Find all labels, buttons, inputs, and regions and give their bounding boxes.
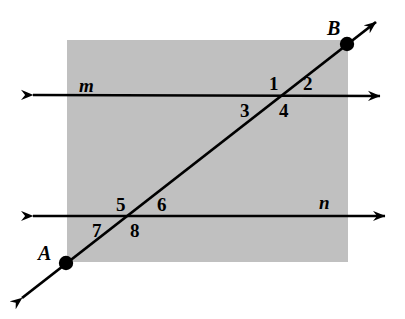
line-n-label: n <box>319 193 330 212</box>
angle-label-5: 5 <box>116 195 126 214</box>
point-b-dot <box>340 37 354 51</box>
point-a-dot <box>59 256 73 270</box>
angle-label-1: 1 <box>269 74 279 93</box>
line-m-label: m <box>79 76 94 95</box>
point-a-label: A <box>38 243 51 263</box>
angle-label-2: 2 <box>303 74 313 93</box>
angle-label-8: 8 <box>130 221 140 240</box>
angle-label-6: 6 <box>157 195 167 214</box>
point-b-label: B <box>327 18 340 38</box>
geometry-figure: A B m n 1 2 3 4 5 6 7 8 <box>0 0 405 319</box>
angle-label-3: 3 <box>240 101 250 120</box>
angle-label-7: 7 <box>92 221 102 240</box>
angle-label-4: 4 <box>279 101 289 120</box>
geometry-canvas <box>0 0 405 319</box>
